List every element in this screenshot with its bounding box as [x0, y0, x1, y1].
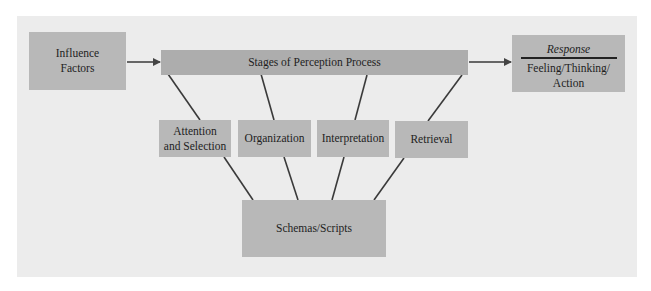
attention-line2: and Selection — [164, 139, 226, 154]
response-title: Response — [547, 43, 590, 56]
stages-label: Stages of Perception Process — [248, 55, 381, 70]
influence-line1: Influence — [56, 46, 99, 61]
line-stages-interpretation — [355, 75, 367, 120]
organization-box: Organization — [238, 120, 311, 157]
influence-line2: Factors — [61, 61, 95, 76]
line-retrieval-schemas — [374, 158, 404, 200]
line-attention-schemas — [224, 157, 253, 200]
retrieval-box: Retrieval — [395, 121, 468, 158]
response-box: Response Feeling/Thinking/ Action — [512, 35, 625, 92]
schemas-scripts-box: Schemas/Scripts — [242, 200, 386, 257]
influence-factors-box: Influence Factors — [29, 32, 126, 90]
retrieval-label: Retrieval — [410, 132, 452, 147]
response-line2: Action — [553, 76, 584, 91]
line-stages-organization — [261, 74, 274, 120]
organization-label: Organization — [245, 131, 305, 146]
attention-line1: Attention — [173, 124, 216, 139]
schemas-label: Schemas/Scripts — [276, 221, 352, 236]
attention-selection-box: Attention and Selection — [159, 120, 231, 157]
line-organization-schemas — [284, 157, 298, 200]
interpretation-label: Interpretation — [322, 131, 385, 146]
response-divider — [521, 57, 617, 59]
line-interpretation-schemas — [332, 157, 344, 200]
stages-box: Stages of Perception Process — [161, 50, 468, 75]
line-stages-retrieval — [428, 75, 462, 121]
response-line1: Feeling/Thinking/ — [527, 61, 610, 76]
interpretation-box: Interpretation — [317, 120, 389, 157]
line-stages-attention — [168, 74, 200, 120]
